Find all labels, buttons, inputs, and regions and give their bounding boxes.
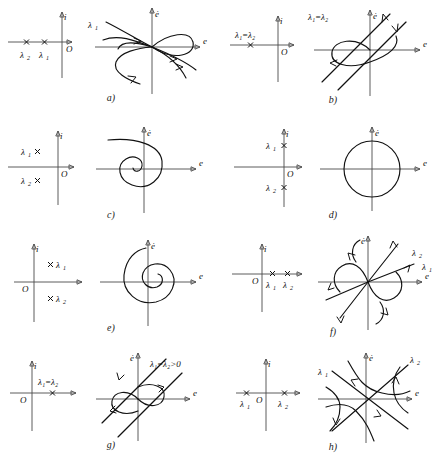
panel-f-imag-axis-label: i xyxy=(264,244,267,254)
panel-f-phase-eigen-label-0: λ xyxy=(411,248,416,258)
panel-d-origin: O xyxy=(287,169,294,179)
panel-b: λ₁=λ₂ O i e ė λ₁=λ₂ b) xyxy=(222,0,444,115)
panel-d: λ 1 λ 2 O i e ė d) xyxy=(222,115,444,230)
panel-d-imag-axis-label: i xyxy=(286,129,289,139)
eigenvalue-marker-lambda1 xyxy=(270,271,275,276)
panel-e: λ 1 λ 2 O i e ė e) xyxy=(0,230,222,345)
panel-g-imag-axis-label: i xyxy=(34,361,37,371)
panel-e-imag-axis-label: i xyxy=(36,244,39,254)
panel-h-imag-axis-label: i xyxy=(268,359,271,369)
panel-c-caption: c) xyxy=(0,209,222,220)
panel-b-phase-portrait: e ė λ₁=λ₂ xyxy=(307,10,427,96)
panel-h-origin: O xyxy=(256,395,263,405)
panel-f-eigen-label-1: λ xyxy=(282,280,287,290)
panel-d-phase-x-label: e xyxy=(423,158,427,168)
panel-e-complex-plane: λ 1 λ 2 O i xyxy=(14,244,82,322)
panel-f-eigen-label-0: λ xyxy=(265,280,270,290)
panel-f-origin: O xyxy=(252,276,259,286)
panel-d-eigen-sub-0: 1 xyxy=(273,146,276,152)
panel-e-phase-x-label: e xyxy=(199,271,203,281)
panel-g-origin: O xyxy=(20,395,27,405)
panel-g-eigen-label: λ₁=λ₂ xyxy=(37,377,58,387)
panel-e-eigen-label-0: λ xyxy=(55,260,60,270)
panel-g: λ₁=λ₂ O i e ė λ₁=λ₂>0 g) xyxy=(0,345,222,459)
panel-e-eigen-label-1: λ xyxy=(55,294,60,304)
eigenvalue-marker-lambda2 xyxy=(48,296,53,301)
panel-h-eigen-label-0: λ xyxy=(239,399,244,409)
panel-g-caption: g) xyxy=(0,439,222,450)
panel-b-eigen-label: λ₁=λ₂ xyxy=(234,30,255,40)
panel-h-phase-eigen-sub-1: 2 xyxy=(417,360,420,366)
panel-b-phase-x-label: e xyxy=(423,39,427,49)
panel-f-phase-eigen-sub-1: 1 xyxy=(429,267,432,273)
panel-g-phase-portrait: e ė λ₁=λ₂>0 xyxy=(96,353,197,441)
panel-c: λ 1 λ 2 O i e ė c) xyxy=(0,115,222,230)
panel-a-eigen-sub-0: 2 xyxy=(27,55,30,61)
panel-h-phase-y-label: ė xyxy=(369,353,373,363)
panel-a-complex-plane: λ 2 λ 1 O i xyxy=(8,12,73,78)
eigenvalue-marker-lambda2 xyxy=(35,178,40,183)
panel-a: λ 2 λ 1 O i e ė xyxy=(0,0,222,115)
panel-b-phase-y-label: ė xyxy=(373,11,377,21)
panel-f-phase-eigen-sub-0: 2 xyxy=(419,253,422,259)
panel-a-eigen-sub-1: 1 xyxy=(46,55,49,61)
panel-g-complex-plane: λ₁=λ₂ O i xyxy=(10,361,76,431)
panel-e-phase-portrait: e ė xyxy=(100,240,203,326)
panel-f-caption: f) xyxy=(222,326,444,337)
panel-a-phase-eigen-label: λ xyxy=(87,20,92,30)
panel-c-phase-portrait: e ė xyxy=(96,127,203,213)
panel-a-caption: a) xyxy=(0,92,222,103)
panel-h: λ 1 λ 2 O i e ė xyxy=(222,345,444,459)
panel-h-phase-x-label: e xyxy=(415,388,419,398)
panel-c-eigen-label-1: λ xyxy=(20,176,25,186)
panel-g-phase-y-label: ė xyxy=(130,353,134,363)
panel-e-caption: e) xyxy=(0,322,222,333)
panel-e-eigen-sub-0: 1 xyxy=(63,265,66,271)
panel-d-eigen-sub-1: 2 xyxy=(273,188,276,194)
panel-a-phase-x-label: e xyxy=(203,36,207,46)
panel-a-phase-eigen-sub: 1 xyxy=(95,25,98,31)
panel-h-complex-plane: λ 1 λ 2 O i xyxy=(236,359,300,431)
panel-c-complex-plane: λ 1 λ 2 O i xyxy=(8,131,74,205)
panel-d-eigen-label-1: λ xyxy=(265,183,270,193)
panel-a-eigen-label-1: λ xyxy=(38,50,43,60)
panel-d-caption: d) xyxy=(222,209,444,220)
panel-h-eigen-label-1: λ xyxy=(277,399,282,409)
eigenvalue-marker-lambda1 xyxy=(48,262,53,267)
panel-f-phase-portrait: e ė λ 2 λ 1 xyxy=(318,236,432,330)
panel-h-eigen-sub-1: 2 xyxy=(285,404,288,410)
panel-h-caption: h) xyxy=(222,441,444,452)
panel-b-complex-plane: λ₁=λ₂ O i xyxy=(230,16,294,82)
panel-c-phase-x-label: e xyxy=(199,158,203,168)
panel-a-eigen-label-0: λ xyxy=(19,50,24,60)
panel-a-phase-y-label: ė xyxy=(155,9,159,19)
panel-f-eigen-sub-1: 2 xyxy=(290,285,293,291)
panel-c-eigen-label-0: λ xyxy=(20,147,25,157)
panel-d-complex-plane: λ 1 λ 2 O i xyxy=(234,129,302,207)
panel-h-phase-eigen-label-1: λ xyxy=(409,355,414,365)
panel-b-phase-eigen-label: λ₁=λ₂ xyxy=(307,12,328,22)
panel-b-caption: b) xyxy=(222,94,444,105)
eigenvalue-marker-lambda1 xyxy=(35,149,40,154)
panel-c-eigen-sub-0: 1 xyxy=(28,152,31,158)
panel-f-phase-y-label: ė xyxy=(361,236,365,246)
panel-f: O λ 1 λ 2 i e ė xyxy=(222,230,444,345)
figure-grid: λ 2 λ 1 O i e ė xyxy=(0,0,444,459)
panel-b-imag-axis-label: i xyxy=(280,16,283,26)
panel-g-phase-x-label: e xyxy=(193,388,197,398)
panel-f-phase-eigen-label-1: λ xyxy=(421,262,426,272)
panel-f-complex-plane: O λ 1 λ 2 i xyxy=(232,244,302,312)
panel-h-phase-eigen-label-0: λ xyxy=(317,367,322,377)
panel-h-eigen-sub-0: 1 xyxy=(247,404,250,410)
panel-h-phase-portrait: e ė λ 1 λ 2 xyxy=(317,353,420,443)
panel-g-phase-eigen-label: λ₁=λ₂>0 xyxy=(149,359,181,369)
panel-c-eigen-sub-1: 2 xyxy=(28,181,31,187)
panel-a-phase-portrait: e ė λ 1 xyxy=(87,8,207,94)
panel-b-origin: O xyxy=(281,47,288,57)
panel-a-origin: O xyxy=(66,44,73,54)
panel-c-origin: O xyxy=(61,169,68,179)
panel-a-imag-axis-label: i xyxy=(64,12,67,22)
panel-c-imag-axis-label: i xyxy=(60,131,63,141)
panel-e-phase-y-label: ė xyxy=(151,241,155,251)
panel-f-eigen-sub-0: 1 xyxy=(273,285,276,291)
